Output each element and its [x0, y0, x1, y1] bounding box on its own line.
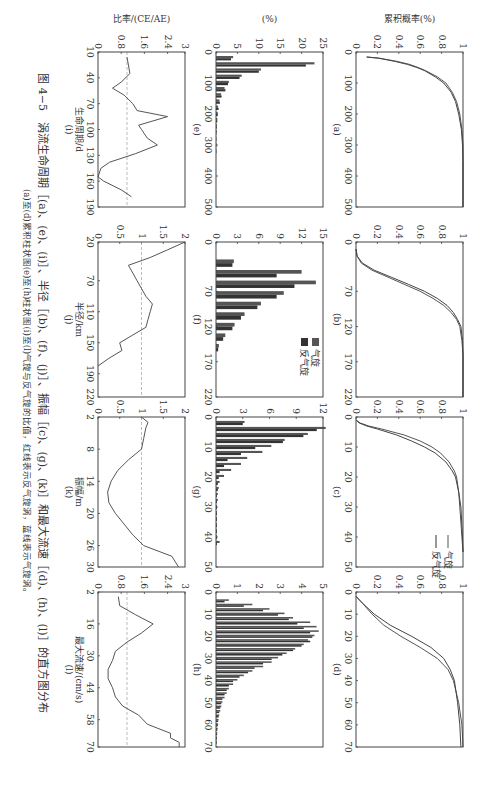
bar [216, 81, 229, 83]
x-tick-label: 0 [203, 49, 213, 55]
y-tick-label: 15 [275, 38, 285, 50]
x-tick-label: 0 [203, 414, 213, 420]
y-tick-label: 0.4 [394, 35, 404, 50]
y-tick-label: 0 [93, 233, 103, 239]
bar [216, 284, 294, 288]
bar [216, 481, 220, 483]
y-tick-label: 0.8 [437, 225, 447, 240]
x-tick-label: 10 [343, 441, 353, 453]
y-tick-label: 5 [232, 43, 242, 49]
bar [216, 469, 231, 471]
x-tick-label: 30 [85, 561, 95, 573]
x-tick-label: 200 [203, 105, 213, 122]
panel-label: (k) [64, 486, 74, 498]
x-tick-label: 150 [85, 334, 95, 351]
x-axis-label: 半径/km [74, 302, 85, 337]
bar [216, 670, 252, 672]
x-tick-label: 170 [343, 353, 353, 370]
x-tick-label: 60 [203, 719, 213, 731]
bar [216, 463, 241, 465]
x-tick-label: 70 [85, 275, 95, 287]
bar [216, 75, 242, 77]
bar [216, 635, 314, 637]
x-tick-label: 0 [343, 589, 353, 595]
y-tick-label: 0.2 [372, 225, 382, 239]
panel-e: 01002003004005000510152025(e) [192, 38, 328, 216]
bar [216, 541, 220, 543]
bar [216, 630, 319, 632]
y-tick-label: 20 [297, 38, 307, 50]
y-tick-label: 0.6 [415, 575, 425, 590]
bar [216, 688, 229, 690]
panel-label: (d) [332, 663, 342, 676]
x-tick-label: 30 [203, 501, 213, 513]
x-tick-label: 2 [85, 589, 95, 595]
bar [216, 64, 306, 66]
x-tick-label: 500 [203, 198, 213, 215]
y-tick-label: 0 [93, 408, 103, 414]
ratio-curve [108, 597, 179, 747]
bar [216, 89, 225, 91]
y-tick-label: 1.6 [139, 575, 149, 590]
bar [216, 707, 220, 709]
bar [216, 645, 302, 647]
panel-a: 010020030040050000.20.40.60.81(a) [332, 35, 468, 216]
panel-label: (j) [64, 315, 74, 325]
bar [216, 429, 317, 431]
bar [216, 604, 252, 606]
bar [216, 666, 263, 668]
x-tick-label: 40 [343, 531, 353, 543]
x-tick-label: 40 [85, 72, 95, 84]
y-tick-label: 3 [275, 583, 285, 589]
y-tick-label: 10 [254, 38, 264, 50]
x-tick-label: 220 [343, 388, 353, 405]
bar [216, 626, 317, 628]
y-tick-label: 0 [351, 233, 361, 239]
x-tick-label: 10 [203, 441, 213, 453]
y-tick-label: 0.8 [437, 400, 447, 415]
legend-lines: 气旋反气旋 [431, 535, 454, 578]
bar [216, 475, 224, 477]
bar [216, 697, 225, 699]
bar [216, 316, 241, 320]
x-tick-label: 220 [203, 388, 213, 405]
bar [216, 93, 221, 95]
y-tick-label: 0.6 [415, 400, 425, 415]
ratio-curve [108, 417, 179, 567]
y-tick-label: 0.2 [372, 35, 382, 49]
x-tick-label: 26 [85, 540, 95, 552]
y-tick-label: 1.6 [139, 35, 149, 50]
y-tick-label: 1 [458, 233, 468, 239]
y-tick-label: 0.4 [394, 225, 404, 240]
bar [216, 675, 244, 677]
x-tick-label: 20 [85, 508, 95, 520]
bar [216, 337, 223, 341]
bar [216, 652, 287, 654]
y-tick-label: 0.8 [437, 35, 447, 50]
bar [216, 295, 277, 299]
x-tick-label: 110 [85, 303, 95, 320]
y-tick-label: 2.4 [163, 575, 173, 590]
bar [216, 281, 316, 285]
x-tick-label: 14 [85, 476, 95, 488]
y-tick-label: 9 [275, 233, 285, 239]
panel-b: 07012017022000.20.40.60.81(b) [332, 225, 468, 406]
bar [216, 83, 228, 85]
bar [216, 657, 278, 659]
bar [216, 327, 232, 331]
figure-rotated: 010020030040050000.20.40.60.81(a)0701201… [0, 0, 491, 787]
x-tick-label: 16 [85, 618, 95, 630]
bar [216, 683, 233, 685]
bar [216, 627, 304, 629]
bar [216, 621, 310, 623]
y-tick-label: 6 [254, 233, 264, 239]
bar [216, 694, 225, 696]
panel-label: (c) [332, 486, 342, 498]
y-tick-label: 1 [458, 408, 468, 414]
figure-svg: 010020030040050000.20.40.60.81(a)0701201… [0, 0, 491, 787]
bar [216, 433, 308, 435]
plot-frame [356, 52, 463, 207]
legend-bars: 气旋反气旋 [299, 338, 321, 376]
x-tick-label: 0 [203, 239, 213, 245]
y-axis-label-cumulative: 累积概率(%) [384, 13, 436, 24]
